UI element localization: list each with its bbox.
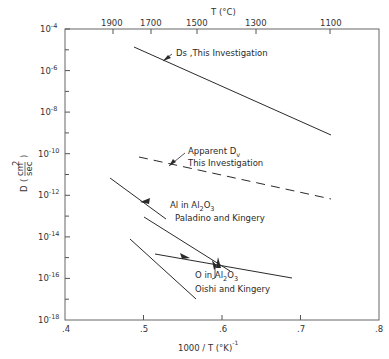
svg-text:10-12: 10-12: [38, 188, 59, 200]
svg-text:10-18: 10-18: [38, 313, 59, 325]
x-tick-labels: .4 .5 .6 .7 .8: [62, 324, 383, 334]
svg-text:10-6: 10-6: [40, 64, 57, 76]
svg-text:(: (: [19, 179, 29, 182]
y-axis-ticks: [65, 29, 70, 299]
svg-text:.6: .6: [219, 324, 227, 334]
line-o-1: [130, 239, 196, 299]
svg-text:10-16: 10-16: [38, 271, 59, 283]
series-lines: [110, 47, 331, 299]
label-o-line1: O in Al2O3: [195, 270, 238, 283]
svg-text:1100: 1100: [320, 18, 342, 28]
svg-text:10-8: 10-8: [40, 105, 57, 117]
label-dv-line2: This Investigation: [187, 158, 263, 168]
svg-text:): ): [19, 155, 29, 158]
svg-text:2: 2: [11, 161, 21, 166]
x-axis-ticks: [144, 315, 301, 320]
top-axis-title: T (°C): [210, 7, 236, 17]
x-axis-title: 1000 / T (°K)-1: [178, 339, 238, 353]
label-al-line1: Al in Al2O3: [170, 200, 215, 213]
svg-text:.7: .7: [297, 324, 305, 334]
svg-text:.5: .5: [140, 324, 148, 334]
svg-text:.8: .8: [375, 324, 383, 334]
svg-text:1900: 1900: [101, 18, 123, 28]
svg-text:sec: sec: [24, 161, 34, 176]
svg-text:D: D: [19, 185, 29, 192]
svg-text:.4: .4: [62, 324, 70, 334]
arrhenius-chart: 10-4 10-6 10-8 10-10 10-12 10-14 10-16 1…: [0, 0, 389, 359]
y-tick-labels: 10-4 10-6 10-8 10-10 10-12 10-14 10-16 1…: [38, 22, 59, 325]
label-o-line2: Oishi and Kingery: [195, 284, 270, 294]
y-axis-title: D ( cm 2 sec ): [11, 155, 34, 192]
svg-text:1500: 1500: [186, 18, 208, 28]
svg-text:1300: 1300: [245, 18, 267, 28]
svg-text:10-14: 10-14: [38, 230, 59, 242]
label-ds: Ds ,This Investigation: [176, 48, 268, 58]
top-tick-labels: 1900 1700 1500 1300 1100: [101, 18, 342, 28]
svg-text:10-10: 10-10: [38, 147, 59, 159]
svg-text:1700: 1700: [140, 18, 162, 28]
line-al-1: [110, 178, 166, 219]
svg-text:10-4: 10-4: [40, 22, 57, 34]
top-axis-ticks: [113, 29, 330, 34]
label-al-line2: Paladino and Kingery: [175, 213, 265, 223]
